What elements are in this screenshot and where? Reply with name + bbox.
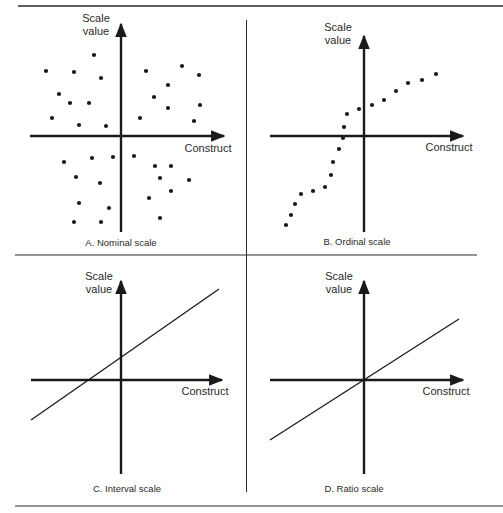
data-point [158, 176, 162, 180]
y-axis-label: Scale [85, 270, 113, 282]
panel-ratio: Scale value Construct D. Ratio scale [270, 270, 470, 494]
data-point [345, 112, 349, 116]
panel-caption: A. Nominal scale [85, 237, 156, 248]
data-point [132, 154, 136, 158]
data-point [77, 123, 81, 127]
data-point [187, 178, 191, 182]
data-point [293, 202, 297, 206]
data-point [147, 196, 151, 200]
x-axis-label: Construct [422, 385, 469, 397]
x-axis-label: Construct [181, 385, 228, 397]
data-point [341, 136, 345, 140]
data-point [323, 185, 327, 189]
scatter-points [44, 53, 202, 224]
data-point [74, 175, 78, 179]
data-point [180, 64, 184, 68]
data-point [299, 192, 303, 196]
data-point [420, 78, 424, 82]
data-point [192, 119, 196, 123]
scatter-points [284, 72, 438, 227]
data-point [72, 220, 76, 224]
y-axis-label: Scale [82, 12, 110, 24]
data-point [166, 106, 170, 110]
data-point [197, 73, 201, 77]
data-point [138, 116, 142, 120]
relationship-line [31, 289, 219, 420]
y-axis-label: Scale [324, 21, 352, 33]
data-point [107, 206, 111, 210]
data-point [342, 125, 346, 129]
y-axis-label: value [86, 283, 112, 295]
data-point [169, 189, 173, 193]
data-point [166, 83, 170, 87]
data-point [90, 156, 94, 160]
data-point [153, 164, 157, 168]
data-point [434, 72, 438, 76]
data-point [406, 81, 410, 85]
panel-ordinal: Scale value Construct B. Ordinal scale [270, 21, 473, 247]
data-point [357, 107, 361, 111]
data-point [104, 124, 108, 128]
data-point [99, 76, 103, 80]
x-axis-label: Construct [425, 141, 472, 153]
data-point [62, 160, 66, 164]
panel-caption: B. Ordinal scale [323, 236, 390, 247]
panel-caption: D. Ratio scale [324, 483, 383, 494]
data-point [169, 164, 173, 168]
data-point [158, 216, 162, 220]
figure-canvas: Scale value Construct A. Nominal scale S… [0, 0, 503, 513]
data-point [111, 155, 115, 159]
data-point [329, 173, 333, 177]
panel-caption: C. Interval scale [93, 483, 161, 494]
figure: Scale value Construct A. Nominal scale S… [0, 0, 503, 513]
data-point [337, 147, 341, 151]
data-point [331, 160, 335, 164]
y-axis-label: value [326, 283, 352, 295]
y-axis-label: value [83, 25, 109, 37]
y-axis-label: value [325, 34, 351, 46]
data-point [311, 189, 315, 193]
x-axis-label: Construct [184, 142, 231, 154]
data-point [152, 95, 156, 99]
data-point [382, 98, 386, 102]
y-axis-label: Scale [325, 270, 353, 282]
data-point [284, 223, 288, 227]
panel-interval: Scale value Construct C. Interval scale [31, 270, 229, 494]
data-point [289, 213, 293, 217]
data-point [44, 69, 48, 73]
data-point [198, 103, 202, 107]
data-point [394, 89, 398, 93]
data-point [57, 92, 61, 96]
data-point [370, 103, 374, 107]
data-point [68, 101, 72, 105]
data-point [50, 116, 54, 120]
data-point [99, 220, 103, 224]
data-point [98, 181, 102, 185]
panel-nominal: Scale value Construct A. Nominal scale [30, 12, 232, 248]
data-point [77, 201, 81, 205]
data-point [87, 101, 91, 105]
data-point [72, 70, 76, 74]
data-point [144, 69, 148, 73]
data-point [92, 53, 96, 57]
